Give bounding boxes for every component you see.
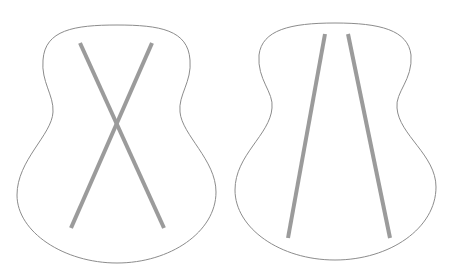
brace-parallel-2 (348, 34, 390, 238)
brace-x-2 (71, 43, 152, 228)
brace-parallel-1 (288, 34, 325, 238)
guitar-body-outline (17, 25, 216, 263)
guitar-top-parallel-braced (235, 23, 436, 260)
bracing-diagram (0, 0, 451, 276)
guitar-top-x-braced (17, 25, 216, 263)
brace-x-1 (80, 43, 164, 228)
guitar-body-outline (235, 23, 436, 260)
